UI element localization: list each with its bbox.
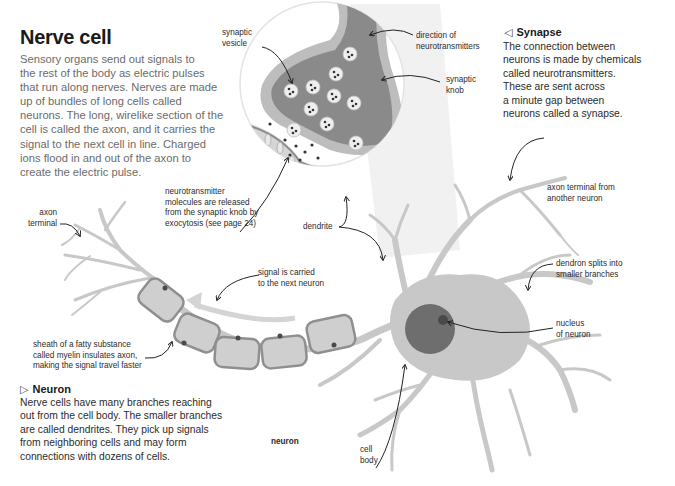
synapse-description: The connection between neurons is made b… [503,40,675,120]
synapse-heading-text: Synapse [516,26,561,38]
neuron-heading-text: Neuron [32,383,71,395]
label-neurotransmitter-release: neurotransmitter molecules are released … [165,187,258,229]
label-myelin-sheath: sheath of a fatty substance called myeli… [33,340,142,372]
right-triangle-icon: ▷ [20,383,28,396]
label-nucleus: nucleus of neuron [556,319,591,340]
signal-direction-arrow [186,292,295,320]
nucleus-shape [405,304,455,354]
myelin-sheath-segments [135,275,357,369]
intro-paragraph: Sensory organs send out signals to the r… [20,52,230,179]
label-neuron-caption: neuron [271,437,299,448]
neuron-description: Nerve cells have many branches reaching … [20,396,240,463]
left-triangle-icon: ◁ [504,26,512,39]
page-title: Nerve cell [20,26,112,49]
synapse-heading: ◁Synapse [504,26,562,39]
label-synaptic-knob: synaptic knob [446,75,476,96]
label-axon-terminal: axon terminal [28,208,57,229]
label-dendron-splits: dendron splits into smaller branches [556,259,622,280]
label-synaptic-vesicle: synaptic vesicle [222,28,252,49]
nucleolus-shape [438,315,448,325]
label-cell-body: cell body [360,445,378,466]
label-direction-of-neurotransmitters: direction of neurotransmitters [416,31,480,52]
label-signal-carried: signal is carried to the next neuron [258,268,324,289]
label-dendrite: dendrite [303,222,333,233]
neuron-heading: ▷Neuron [20,383,71,396]
label-axon-terminal-other-neuron: axon terminal from another neuron [547,183,615,204]
